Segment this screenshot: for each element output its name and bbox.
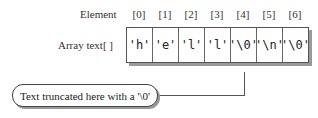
array-label: Array text[ ] [58, 39, 113, 51]
array-cell: 'l' [205, 28, 231, 62]
index-label: [6] [282, 8, 308, 20]
array-cell: '\0' [231, 28, 257, 62]
array-cell: 'l' [179, 28, 205, 62]
index-label: [1] [152, 8, 178, 20]
index-label: [5] [256, 8, 282, 20]
index-label: [4] [230, 8, 256, 20]
callout-text: Text truncated here with a '\0' [20, 90, 150, 102]
array-cell: '\n' [257, 28, 283, 62]
array-cells: 'h' 'e' 'l' 'l' '\0' '\n' '\0' [126, 27, 309, 63]
array-cell: 'e' [153, 28, 179, 62]
index-label: [2] [178, 8, 204, 20]
connector-line-vertical [244, 72, 245, 96]
callout-box: Text truncated here with a '\0' [12, 84, 158, 107]
array-cell: 'h' [127, 28, 153, 62]
index-label: [0] [126, 8, 152, 20]
array-cell: '\0' [283, 28, 308, 62]
index-label: [3] [204, 8, 230, 20]
connector-line-horizontal [158, 95, 245, 96]
element-label: Element [80, 8, 117, 20]
